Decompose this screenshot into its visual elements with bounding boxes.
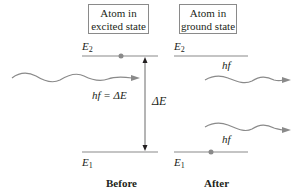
emitted-photon-wave-1 [205,76,283,82]
before-e2-label: E2 [82,40,93,54]
ground-state-box-line2: ground state [180,20,236,33]
before-e2-symbol: E [82,40,89,52]
emitted-photon-label-1: hf [222,59,231,71]
after-e1-label: E1 [174,156,185,170]
before-e2-subscript: 2 [89,45,93,54]
emitted-photon-label-2: hf [222,133,231,145]
emitted-photon-arrowhead-2-icon [282,127,291,133]
ground-state-box-line1: Atom in [180,7,236,20]
delta-e-arrowhead-up-icon [143,57,148,63]
before-e1-label: E1 [82,156,93,170]
incident-photon-energy-label: hf = ΔE [92,89,127,101]
after-caption: After [204,177,229,189]
after-e2-subscript: 2 [181,45,185,54]
emitted-photon-arrowhead-1-icon [282,77,291,83]
incident-photon-arrowhead-icon [131,75,140,81]
after-e2-label: E2 [174,40,185,54]
after-e2-symbol: E [174,40,181,52]
ground-state-box: Atom in ground state [179,4,237,34]
incident-photon-wave [12,73,132,82]
delta-e-arrowhead-down-icon [143,145,148,151]
energy-gap-label: ΔE [152,94,166,109]
excited-state-box: Atom in excited state [88,4,149,34]
after-electron-dot [209,150,214,155]
after-e1-subscript: 1 [181,161,185,170]
before-electron-dot [119,54,124,59]
before-caption: Before [106,177,137,189]
before-e1-symbol: E [82,156,89,168]
emitted-photon-wave-2 [205,123,283,130]
after-e1-symbol: E [174,156,181,168]
excited-state-box-line1: Atom in [89,7,148,20]
excited-state-box-line2: excited state [89,20,148,33]
before-e1-subscript: 1 [89,161,93,170]
